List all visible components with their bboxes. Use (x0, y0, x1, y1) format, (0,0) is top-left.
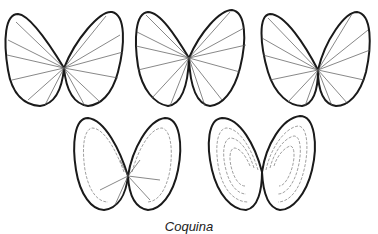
coquina-shell-illustration (0, 0, 378, 234)
shell-3 (262, 12, 371, 106)
figure-caption: Coquina (0, 219, 378, 234)
shell-4 (74, 118, 180, 210)
shell-2 (136, 10, 246, 106)
shell-1 (5, 12, 123, 106)
shell-5 (209, 116, 315, 210)
